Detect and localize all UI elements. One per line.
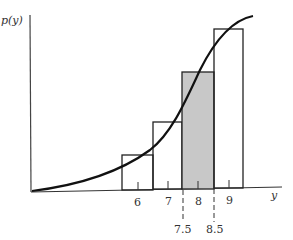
- x-axis-label: y: [270, 189, 278, 202]
- interval-left-label: 7.5: [174, 223, 192, 236]
- bar-9: [214, 29, 243, 188]
- tick-label-9: 9: [226, 194, 233, 207]
- histogram-chart: p(y) y 6 7 8 9 7.5 8.5: [0, 0, 293, 240]
- tick-label-8: 8: [195, 195, 202, 208]
- y-axis-label: p(y): [1, 14, 23, 27]
- y-axis: [30, 15, 31, 192]
- bar-8-shaded: [182, 72, 214, 189]
- cdf-curve: [32, 16, 253, 191]
- interval-right-label: 8.5: [206, 223, 224, 236]
- tick-label-6: 6: [134, 196, 141, 209]
- tick-label-7: 7: [165, 195, 172, 208]
